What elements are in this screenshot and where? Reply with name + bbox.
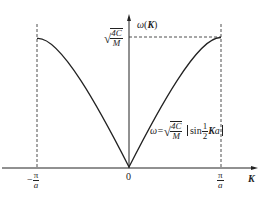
tick-minus-pi-over-a: −πa [27,171,39,191]
dispersion-formula: ω=√4CM sin12Ka [150,121,223,142]
max-frequency-label: √ 4CM [104,28,123,49]
tick-origin: 0 [126,172,131,182]
dispersion-plot [0,0,269,197]
x-axis-label: K [248,174,255,184]
omega-symbol: ω [137,19,144,30]
y-axis-label: ω(K) [137,20,157,30]
paren-close: ) [154,19,157,30]
tick-pi-over-a: πa [217,171,224,191]
x-axis-arrow-icon [251,166,258,170]
y-axis-arrow-icon [127,14,131,21]
